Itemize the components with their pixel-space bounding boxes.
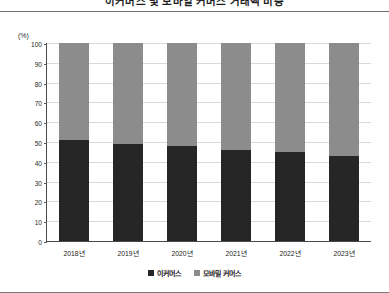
bar-segment-ecommerce[interactable] xyxy=(167,146,197,241)
x-axis-tick-label: 2023년 xyxy=(317,248,371,258)
bar-segment-mobile-commerce[interactable] xyxy=(275,43,305,152)
legend-swatch-icon xyxy=(148,270,154,276)
plot-frame: 1009080706050403020100 2018년2019년2020년20… xyxy=(46,43,371,242)
stacked-bar[interactable] xyxy=(59,43,89,241)
bar-segment-ecommerce[interactable] xyxy=(275,152,305,241)
bar-segment-mobile-commerce[interactable] xyxy=(329,43,359,156)
page-title: 이커머스 및 모바일 커머스 거래액 비중 xyxy=(0,0,389,8)
y-tick-mark xyxy=(44,242,48,243)
y-axis-tick-label: 60 xyxy=(35,120,42,127)
x-axis-tick-label: 2019년 xyxy=(101,248,155,258)
bar-slot: 2018년 xyxy=(47,43,101,241)
bar-segment-ecommerce[interactable] xyxy=(113,144,143,241)
y-axis-tick-label: 30 xyxy=(35,179,42,186)
chart-figure: (%) 1009080706050403020100 2018년2019년202… xyxy=(0,12,389,292)
stacked-bar[interactable] xyxy=(113,43,143,241)
bar-slot: 2021년 xyxy=(209,43,263,241)
y-axis-tick-label: 0 xyxy=(38,239,42,246)
stacked-bar[interactable] xyxy=(221,43,251,241)
bar-segment-mobile-commerce[interactable] xyxy=(59,43,89,140)
bar-segment-mobile-commerce[interactable] xyxy=(113,43,143,144)
y-axis-tick-label: 40 xyxy=(35,159,42,166)
bar-segment-ecommerce[interactable] xyxy=(329,156,359,241)
y-axis-tick-label: 100 xyxy=(31,41,42,48)
chart-legend: 이커머스모바일 커머스 xyxy=(0,268,389,278)
legend-item[interactable]: 이커머스 xyxy=(148,268,181,278)
bar-segment-mobile-commerce[interactable] xyxy=(221,43,251,150)
plot-area: 1009080706050403020100 2018년2019년2020년20… xyxy=(46,43,371,242)
chart-title-strip: 이커머스 및 모바일 커머스 거래액 비중 xyxy=(0,0,389,11)
y-axis-tick-label: 10 xyxy=(35,219,42,226)
chart-page: 이커머스 및 모바일 커머스 거래액 비중 (%) 10090807060504… xyxy=(0,0,389,293)
legend-swatch-icon xyxy=(194,270,200,276)
y-axis-tick-label: 70 xyxy=(35,100,42,107)
bar-slot: 2019년 xyxy=(101,43,155,241)
gridline: 0 xyxy=(47,241,371,242)
legend-label: 이커머스 xyxy=(157,268,181,278)
bar-segment-mobile-commerce[interactable] xyxy=(167,43,197,146)
bar-slot: 2023년 xyxy=(317,43,371,241)
bar-slot: 2022년 xyxy=(263,43,317,241)
x-axis-tick-label: 2022년 xyxy=(263,248,317,258)
bar-group: 2018년2019년2020년2021년2022년2023년 xyxy=(47,43,371,241)
y-axis-tick-label: 20 xyxy=(35,199,42,206)
bar-segment-ecommerce[interactable] xyxy=(221,150,251,241)
x-axis-tick-label: 2018년 xyxy=(47,248,101,258)
legend-label: 모바일 커머스 xyxy=(203,268,241,278)
bar-segment-ecommerce[interactable] xyxy=(59,140,89,241)
legend-item[interactable]: 모바일 커머스 xyxy=(194,268,241,278)
bar-slot: 2020년 xyxy=(155,43,209,241)
stacked-bar[interactable] xyxy=(329,43,359,241)
y-axis-tick-label: 90 xyxy=(35,60,42,67)
stacked-bar[interactable] xyxy=(167,43,197,241)
x-axis-tick-label: 2021년 xyxy=(209,248,263,258)
y-axis-tick-label: 50 xyxy=(35,140,42,147)
stacked-bar[interactable] xyxy=(275,43,305,241)
x-axis-tick-label: 2020년 xyxy=(155,248,209,258)
y-axis-tick-label: 80 xyxy=(35,80,42,87)
y-axis-unit-label: (%) xyxy=(18,32,29,39)
